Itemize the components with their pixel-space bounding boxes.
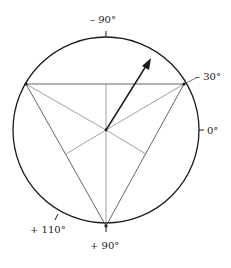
angle-diagram: – 90° – 30° 0° + 110° + 90° [0,0,231,268]
vertex-bottom [104,224,107,227]
label-plus90: + 90° [90,240,119,251]
label-plus110: + 110° [30,224,66,235]
vertex-left [24,82,27,85]
center-to-right-vertex [106,84,184,130]
center-to-left-vertex [26,84,106,130]
diagram-svg: – 90° – 30° 0° + 110° + 90° [0,0,231,268]
label-minus30: – 30° [195,71,221,82]
vertex-right [182,82,185,85]
arrowhead-icon [142,58,151,70]
perp-left-side [66,130,106,154]
perp-right-side [106,130,146,154]
label-minus90: – 90° [90,14,116,25]
vector-arrow [106,66,146,130]
label-zero: 0° [207,125,218,136]
tick-plus110 [55,214,58,220]
